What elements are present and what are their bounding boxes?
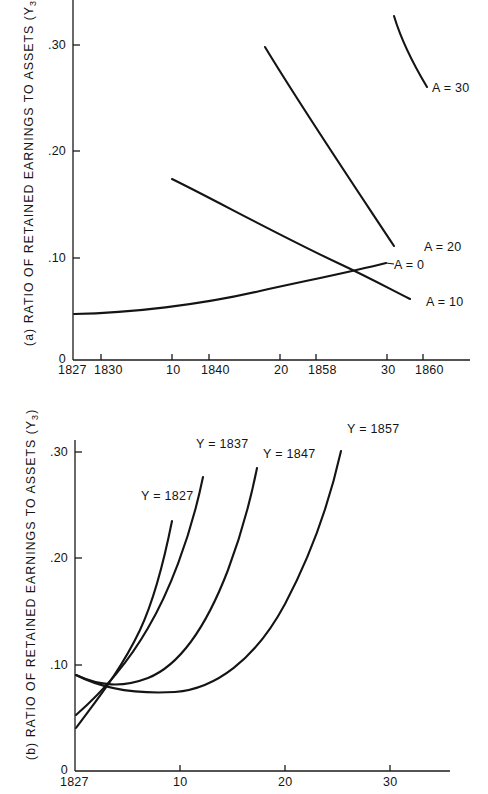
panel-b-y-label-30: .30	[32, 445, 68, 459]
panel-b-y-axis-title-text: (b) RATIO OF RETAINED EARNINGS TO ASSETS…	[24, 420, 38, 760]
panel-b-x-label-1827: 1827	[60, 775, 89, 789]
panel-b-plot	[0, 0, 488, 794]
panel-b-y-label-10: .10	[32, 658, 68, 672]
series-label-b-1837: Y = 1837	[196, 437, 249, 451]
panel-b-y-label-20: .20	[32, 551, 68, 565]
series-label-b-1827: Y = 1827	[141, 489, 194, 503]
curve-b-1827	[76, 521, 172, 728]
figure-container: (a) RATIO OF RETAINED EARNINGS TO ASSETS…	[0, 0, 488, 794]
panel-b-y-axis-title-sub: 3	[30, 414, 40, 420]
curve-b-1837	[76, 477, 203, 715]
panel-b-x-label-20: 20	[278, 775, 292, 789]
series-label-b-1847: Y = 1847	[263, 447, 316, 461]
curve-b-1857	[76, 451, 341, 692]
panel-b-y-axis-title: (b) RATIO OF RETAINED EARNINGS TO ASSETS…	[24, 409, 38, 760]
panel-b-x-label-10: 10	[173, 775, 187, 789]
panel-b-x-label-30: 30	[383, 775, 397, 789]
series-label-b-1857: Y = 1857	[347, 422, 400, 436]
